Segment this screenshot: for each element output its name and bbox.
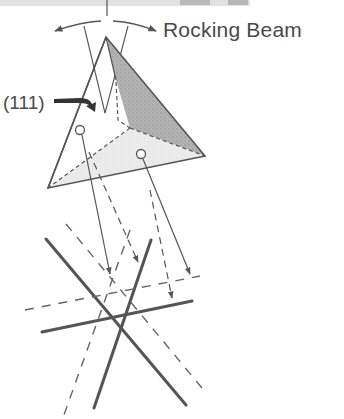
solid-crossing-lines <box>42 239 192 408</box>
top-texture <box>0 0 250 16</box>
tetrahedron <box>48 37 205 188</box>
diagram-svg <box>0 0 344 419</box>
plane-111-label: (111) <box>3 92 45 114</box>
plane-pointer-arrow-icon <box>54 98 96 112</box>
diagram-canvas: Rocking Beam (111) <box>0 0 344 419</box>
rocking-arrows-icon <box>55 21 156 31</box>
rocking-beam-label: Rocking Beam <box>163 18 302 42</box>
